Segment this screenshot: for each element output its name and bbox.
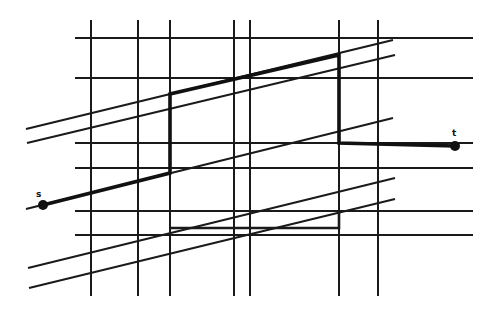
endpoint-s-label: s	[36, 189, 41, 199]
grid-path-diagram: st	[0, 0, 497, 316]
horizontal-grid-lines	[75, 38, 473, 235]
endpoint-t-dot	[450, 141, 460, 151]
endpoint-s-dot	[38, 200, 48, 210]
endpoint-t-label: t	[452, 128, 457, 138]
